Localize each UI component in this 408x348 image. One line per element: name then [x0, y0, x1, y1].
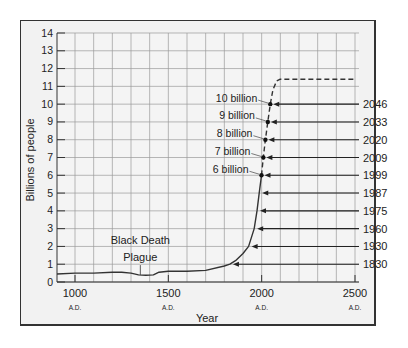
milestone-year: 2009: [363, 152, 387, 164]
milestone-dot: [259, 173, 263, 177]
milestone-year: 1830: [363, 258, 387, 270]
milestone-label: 7 billion: [215, 145, 251, 157]
milestone-year: 1999: [363, 169, 387, 181]
milestone-dot: [261, 155, 265, 159]
y-tick-label: 13: [41, 44, 53, 56]
y-tick-label: 10: [41, 98, 53, 110]
y-tick-label: 3: [47, 222, 53, 234]
x-tick-label: 1500: [156, 287, 180, 299]
x-tick-era: A.D.: [255, 304, 268, 311]
milestone-year: 1975: [363, 205, 387, 217]
x-tick-label: 2000: [249, 287, 273, 299]
y-tick-label: 5: [47, 187, 53, 199]
y-tick-label: 2: [47, 240, 53, 252]
milestone-year: 1960: [363, 223, 387, 235]
x-tick-era: A.D.: [349, 304, 362, 311]
annotation-plague: Plague: [123, 251, 157, 263]
milestone-year: 1930: [363, 240, 387, 252]
population-chart: 012345678910111213141000A.D.1500A.D.2000…: [0, 0, 408, 348]
milestone-year: 2046: [363, 98, 387, 110]
milestone-year: 2020: [363, 134, 387, 146]
milestone-label: 9 billion: [219, 109, 255, 121]
y-tick-label: 11: [42, 80, 53, 92]
x-tick-label: 2500: [343, 287, 367, 299]
milestone-dot: [268, 102, 272, 106]
y-axis-title: Billions of people: [24, 118, 36, 201]
milestone-dot: [266, 120, 270, 124]
y-tick-label: 1: [47, 258, 53, 270]
y-tick-label: 12: [41, 62, 53, 74]
annotation-black-death: Black Death: [111, 234, 170, 246]
milestone-label: 8 billion: [217, 127, 253, 139]
milestone-label: 6 billion: [213, 163, 249, 175]
milestone-label: 10 billion: [216, 92, 258, 104]
x-tick-label: 1000: [63, 287, 87, 299]
milestone-year: 2033: [363, 116, 387, 128]
y-tick-label: 14: [41, 27, 53, 39]
y-tick-label: 4: [47, 204, 53, 216]
milestone-year: 1987: [363, 187, 387, 199]
y-tick-label: 7: [47, 151, 53, 163]
x-tick-era: A.D.: [69, 304, 82, 311]
x-axis-title: Year: [196, 312, 219, 324]
y-tick-label: 9: [47, 115, 53, 127]
x-tick-era: A.D.: [162, 304, 175, 311]
milestone-dot: [263, 138, 267, 142]
y-tick-label: 6: [47, 169, 53, 181]
y-tick-label: 8: [47, 133, 53, 145]
y-tick-label: 0: [47, 276, 53, 288]
